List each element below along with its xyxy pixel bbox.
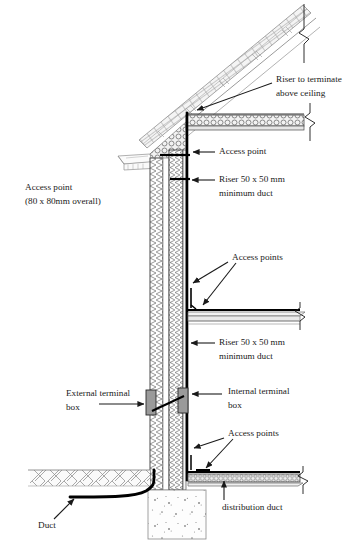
label-duct: Duct [38,520,56,530]
label-riser-duct-upper-line1: Riser 50 x 50 mm [219,174,285,184]
external-terminal-box [146,390,156,415]
internal-terminal-box [178,388,188,413]
label-riser-terminate-line1: Riser to terminate [276,74,342,84]
label-access-point-top: Access point [219,146,267,156]
label-riser-terminate-line2: above ceiling [276,88,326,98]
label-external-terminal-box-line1: External terminal [66,388,130,398]
label-access-point-left-line2: (80 x 80mm overall) [25,196,101,206]
label-distribution-duct: distribution duct [222,502,283,512]
label-riser-duct-upper-line2: minimum duct [219,188,273,198]
label-external-terminal-box-line2: box [66,402,80,412]
label-riser-duct-lower-line2: minimum duct [219,351,273,361]
foundation [148,490,206,539]
ceiling-insulation [186,114,304,130]
label-internal-terminal-box-line1: Internal terminal [228,386,290,396]
label-internal-terminal-box-line2: box [228,400,242,410]
cavity-wall [150,150,186,490]
label-riser-duct-lower-line1: Riser 50 x 50 mm [219,337,285,347]
architectural-section-diagram: Riser to terminate above ceiling Access … [0,0,358,549]
label-access-points-mid: Access points [232,252,283,262]
label-access-point-left-line1: Access point [25,182,73,192]
label-access-points-bottom: Access points [228,428,279,438]
ground-hatch [28,470,150,486]
